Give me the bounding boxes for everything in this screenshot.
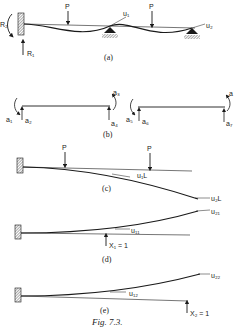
panel-c: P P u₁L u₂L (c) xyxy=(17,144,222,202)
panel-b: a₁ a₂ a₃ a₄ a₅ a₆ a a₇ (b) xyxy=(6,89,233,139)
rotation-label: u₁ xyxy=(123,10,130,17)
panel-e: u₁₂ u₂₂ X₂ = 1 (e) xyxy=(15,272,221,317)
deflected-shape xyxy=(21,211,198,233)
load-label: P xyxy=(62,144,67,151)
force-label: a₃ xyxy=(113,89,120,96)
moment-arrow-icon xyxy=(15,98,19,114)
figure-7-3: R₂ R₁ P P u₁ u₂ (a) a₁ a₂ a₃ xyxy=(0,0,234,334)
panel-caption: (e) xyxy=(100,306,109,315)
fixed-support xyxy=(15,288,21,302)
panel-caption: (b) xyxy=(103,130,113,139)
deflected-shape xyxy=(21,274,200,296)
rotation-label: u₂₂ xyxy=(211,272,221,279)
tangent-line xyxy=(192,24,205,28)
moment-arrow-icon xyxy=(113,95,116,110)
undeformed-beam xyxy=(21,296,188,301)
fixed-support xyxy=(15,225,21,239)
force-label: a₆ xyxy=(142,118,149,125)
force-label: a₁ xyxy=(6,116,13,123)
undeformed-beam xyxy=(21,233,190,235)
fixed-support xyxy=(18,13,24,35)
deflected-shape xyxy=(23,167,198,199)
rotation-label: u₂L xyxy=(211,195,222,202)
force-label: a xyxy=(229,90,233,97)
load-label: P xyxy=(65,3,70,10)
load-label: P xyxy=(147,145,152,152)
rotation-label: u₁₂ xyxy=(129,290,138,297)
panel-caption: (a) xyxy=(104,53,113,62)
load-label: P xyxy=(149,3,154,10)
rotation-label: u₂₁ xyxy=(211,208,221,215)
panel-caption: (c) xyxy=(102,184,111,193)
force-label: a₂ xyxy=(25,117,32,124)
rotation-label: u₂ xyxy=(206,22,213,29)
figure-title: Fig. 7.3. xyxy=(91,317,123,327)
rotation-label: u₁L xyxy=(137,172,147,179)
panel-caption: (d) xyxy=(102,255,112,264)
reaction-label: R₁ xyxy=(27,50,35,57)
tangent-line xyxy=(196,210,210,211)
moment-arrow-icon xyxy=(8,14,13,36)
force-label: a₇ xyxy=(226,120,233,127)
force-label: a₅ xyxy=(126,116,133,123)
reaction-label: R₂ xyxy=(0,21,8,28)
rotation-label: u₁₁ xyxy=(131,227,140,234)
unit-load-label: X₁ = 1 xyxy=(109,242,128,249)
unit-load-label: X₂ = 1 xyxy=(190,310,209,317)
panel-d: u₁₁ u₂₁ X₁ = 1 (d) xyxy=(15,208,221,264)
fixed-support xyxy=(17,158,23,173)
moment-arrow-icon xyxy=(130,99,134,114)
panel-a: R₂ R₁ P P u₁ u₂ (a) xyxy=(0,3,213,62)
force-label: a₄ xyxy=(111,120,118,127)
moment-arrow-icon xyxy=(227,96,230,111)
